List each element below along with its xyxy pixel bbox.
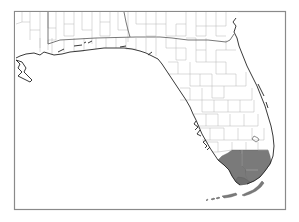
- florida-keys[interactable]: [206, 181, 264, 201]
- florida-county-map: [0, 0, 299, 222]
- mobile-bay-coast: [16, 60, 32, 82]
- map-container: [0, 0, 299, 222]
